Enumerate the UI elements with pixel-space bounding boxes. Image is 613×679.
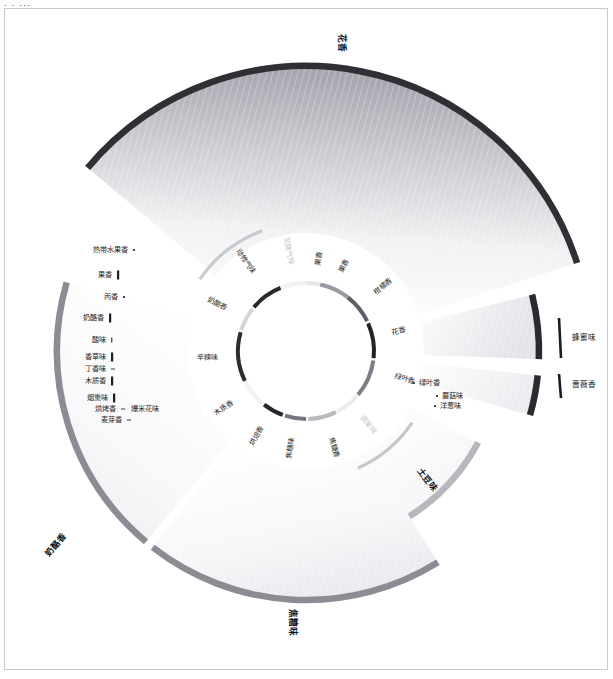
ring-label-0: 果香: [336, 258, 350, 274]
leaf-marker-dash-6: [111, 369, 115, 370]
leaf-marker-dash-11: [127, 420, 131, 421]
ring-label-3: 绿叶香: [393, 371, 416, 385]
leaf-label-10: 爆米花味: [131, 404, 159, 413]
leaf-label-7: 木质香: [85, 376, 106, 385]
ring-label-5: 焦糖香: [327, 436, 341, 459]
outer-tick-label-1: 蔷薇香: [572, 379, 596, 389]
leaf-marker-tiny-4: [111, 338, 112, 343]
leaf-label-6: 丁香味: [85, 364, 106, 373]
ring-segment-9[interactable]: [238, 332, 245, 381]
cheese-title: 奶酪香: [42, 530, 68, 559]
ring-label-9: 辛辣味: [197, 352, 219, 362]
inner-ring-label-group: 果香柑橘香花香绿叶香蔬果味焦糖香焦糖味烘焙香木质香辛辣味奶酪香动物气味发酵气味果…: [197, 236, 416, 459]
outer-tick-group: 蜂蜜味蔷薇香: [559, 318, 596, 398]
rose-wedge[interactable]: [419, 363, 540, 416]
ring-segment-5[interactable]: [308, 412, 335, 419]
outer-tick-mark-1: [559, 374, 561, 398]
ring-segment-3[interactable]: [358, 360, 373, 394]
ring-label-4: 蔬果味: [358, 414, 378, 436]
leaf-label-3: 奶酪香: [83, 313, 104, 322]
ring-segment-0[interactable]: [320, 284, 348, 297]
leaf-label-12: 绿叶香: [419, 378, 440, 387]
leaf-marker-bar-7: [111, 377, 113, 386]
ring-segment-6[interactable]: [285, 416, 306, 419]
leaf-marker-dot-14: [434, 405, 436, 407]
floral-wedge[interactable]: [85, 63, 580, 315]
leaf-label-0: 热带水果香: [93, 245, 128, 254]
leaf-label-1: 果香: [98, 270, 112, 279]
outer-tick-mark-0: [559, 318, 561, 358]
ring-segment-11[interactable]: [254, 288, 281, 307]
flavor-wheel-chart: 果香柑橘香花香绿叶香蔬果味焦糖香焦糖味烘焙香木质香辛辣味奶酪香动物气味发酵气味果…: [0, 0, 613, 679]
leaf-label-11: 麦芽香: [101, 415, 122, 424]
ring-segment-10[interactable]: [241, 309, 252, 330]
ring-label-6: 焦糖味: [284, 437, 296, 459]
ring-label-2: 花香: [391, 325, 407, 337]
ring-segment-1[interactable]: [348, 297, 367, 321]
spoke-arc-group: [200, 231, 412, 468]
inner-ring-group: [238, 283, 374, 419]
leaf-marker-dash-9: [121, 409, 125, 410]
flavor-wheel-page: · · ···: [0, 0, 613, 679]
caramel-title: 焦糖味: [288, 608, 299, 636]
leaf-label-9: 烘烤香: [95, 404, 116, 413]
leaf-marker-dot-2: [123, 296, 125, 298]
leaf-marker-bar-1: [117, 271, 119, 280]
leaf-marker-dot-13: [436, 395, 438, 397]
ring-label-10: 奶酪香: [206, 294, 229, 312]
ring-segment-7[interactable]: [264, 405, 283, 415]
leaf-label-13: 蘑菇味: [442, 391, 463, 400]
outer-wedge-group: [54, 63, 580, 603]
ring-label-8: 木质香: [212, 398, 234, 417]
leaf-label-2: 丙香: [104, 292, 118, 301]
ring-label-1: 柑橘香: [372, 276, 394, 296]
leaf-label-5: 香草味: [85, 352, 106, 361]
ring-segment-12[interactable]: [283, 283, 304, 287]
ring-label-12: 发酵气味: [282, 236, 296, 265]
ring-segment-2[interactable]: [368, 323, 374, 358]
ring-segment-8[interactable]: [246, 383, 262, 403]
leaf-marker-bar-5: [111, 353, 113, 362]
leaf-marker-bar-3: [109, 314, 111, 323]
leaf-label-14: 洋葱味: [440, 401, 461, 410]
floral-title: 花香: [337, 34, 348, 52]
ring-label-11: 动物气味: [235, 247, 258, 275]
ring-segment-4[interactable]: [338, 397, 357, 412]
leaf-marker-bar-8: [113, 394, 115, 403]
leaf-label-8: 烟熏味: [87, 393, 108, 402]
ring-label-7: 烘焙香: [247, 425, 265, 448]
ring-segment-13[interactable]: [306, 283, 320, 284]
leaf-marker-dot-0: [133, 249, 135, 251]
leaf-label-4: 酸味: [92, 335, 106, 344]
leaf-marker-dot-12: [413, 382, 415, 384]
outer-tick-label-0: 蜂蜜味: [572, 332, 596, 342]
ring-label-13: 果香: [313, 251, 324, 266]
